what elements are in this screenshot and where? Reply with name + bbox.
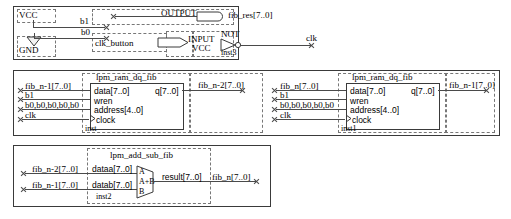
vcc-label: VCC bbox=[19, 10, 38, 20]
ram-right-port-q: q[7..0] bbox=[411, 86, 435, 96]
output-pin-shape[interactable] bbox=[196, 11, 226, 22]
ram-left-out-label: fib_n-2[7..0] bbox=[198, 80, 244, 90]
output-pin-label: OUTPUT bbox=[161, 8, 197, 18]
adder-in-label-1: fib_n-1[7..0] bbox=[32, 180, 78, 190]
adder-symbol-label-b: B bbox=[139, 187, 144, 196]
input-pin-shape[interactable] bbox=[157, 37, 191, 48]
ram-right-out-label: fib_n-1[7..0] bbox=[449, 80, 495, 90]
net-label-b1: b1 bbox=[80, 16, 89, 26]
ram-right-inst: inst1 bbox=[341, 124, 357, 133]
adder-symbol-label-a: A bbox=[139, 167, 145, 176]
adder-in-label-0: fib_n-2[7..0] bbox=[32, 164, 78, 174]
ram-right-in-label-3: clk bbox=[280, 110, 291, 120]
net-label-b0: b0 bbox=[81, 27, 90, 37]
ram-right-in-label-2: b0,b0,b0,b0,b0 bbox=[280, 100, 334, 110]
ram-left-inst: inst bbox=[85, 124, 97, 133]
connector-b1 bbox=[103, 24, 110, 31]
ram-right-clock-marker bbox=[345, 114, 353, 123]
adder-inst: inst2 bbox=[96, 192, 112, 201]
adder-port-datab: datab[7..0] bbox=[92, 180, 132, 190]
net-label-clk-out: clk bbox=[306, 33, 317, 43]
ram-right-port-data: data[7..0] bbox=[350, 86, 385, 96]
ram-left-port-clock: clock bbox=[96, 115, 115, 125]
gnd-label: GND bbox=[19, 45, 39, 55]
ram-left-in-label-3: clk bbox=[25, 110, 36, 120]
ram-left-title: lpm_ram_dq_fib bbox=[96, 72, 157, 82]
ram-left-in-label-1: b1 bbox=[25, 90, 34, 100]
adder-out-label: fib_n[7..0] bbox=[212, 172, 251, 182]
wire-vcc-b1 bbox=[33, 27, 105, 28]
adder-port-result: result[7..0] bbox=[162, 172, 202, 182]
ram-left-in-label-2: b0,b0,b0,b0,b0 bbox=[25, 100, 79, 110]
ram-right-port-address: address[4..0] bbox=[350, 105, 399, 115]
adder-title: lpm_add_sub_fib bbox=[110, 150, 173, 160]
ram-left-port-q: q[7..0] bbox=[155, 86, 179, 96]
clk-button-label: clk_button bbox=[95, 38, 134, 48]
not-gate-inst: inst3 bbox=[221, 48, 237, 57]
connector-adder-out bbox=[253, 178, 260, 185]
ram-left-clock-marker bbox=[89, 114, 97, 123]
ram-right-title: lpm_ram_dq_fib bbox=[352, 72, 413, 82]
wire-ram-right-out bbox=[438, 90, 486, 91]
adder-port-dataa: dataa[7..0] bbox=[92, 164, 132, 174]
net-label-fib-res: fib_res[7..0] bbox=[228, 10, 273, 20]
wire-ram-left-out bbox=[182, 90, 242, 91]
connector-clk-out bbox=[308, 42, 315, 49]
schematic-canvas: VCC b1 b0 GND OUTPUT fib_res[7..0] clk_b… bbox=[0, 0, 511, 219]
input-pin-sublabel: VCC bbox=[192, 43, 211, 53]
ram-right-in-label-1: b1 bbox=[280, 90, 289, 100]
ram-left-port-address: address[4..0] bbox=[94, 105, 143, 115]
wire-not-to-clk bbox=[241, 45, 311, 46]
ram-left-port-data: data[7..0] bbox=[94, 86, 129, 96]
